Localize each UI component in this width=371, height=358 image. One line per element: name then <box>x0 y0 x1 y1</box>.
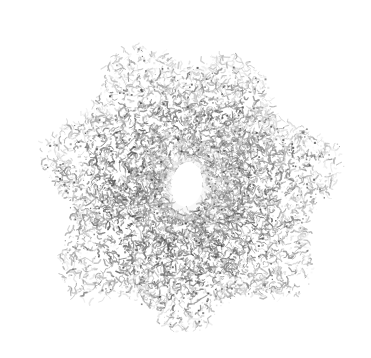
structure-overlay <box>0 0 371 358</box>
central-pore <box>176 169 198 199</box>
molecule-viewport[interactable]: Molecular structure render ring-shaped m… <box>0 0 371 358</box>
